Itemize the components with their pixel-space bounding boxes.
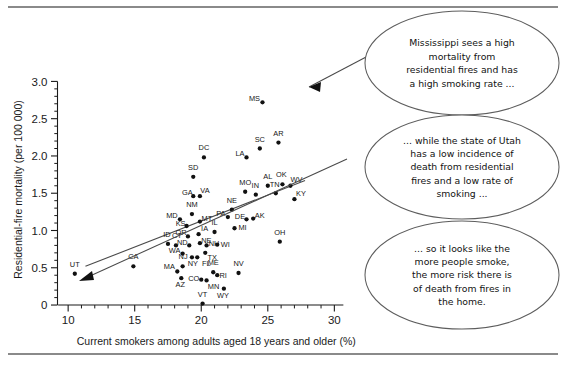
data-point	[254, 193, 258, 197]
callout-line: residential fires and has	[406, 64, 518, 75]
data-point-label: AK	[255, 211, 265, 220]
data-point-label: AR	[273, 129, 283, 138]
data-point	[202, 155, 206, 159]
data-point-label: NM	[186, 200, 198, 209]
data-point-label: SC	[255, 135, 266, 144]
data-point-label: NH	[209, 239, 220, 248]
leader-arrowhead-utah	[79, 271, 94, 281]
data-point-label: WA	[169, 246, 181, 255]
callout-conclusion: ... so it looks like themore people smok…	[365, 221, 559, 329]
data-point-label: AZ	[176, 280, 186, 289]
callout-line: Mississippi sees a high	[409, 37, 515, 48]
callout-line: the home.	[438, 296, 486, 307]
callout-line: more people smoke,	[415, 256, 510, 267]
data-point	[180, 264, 184, 268]
data-point	[73, 272, 77, 276]
data-point	[276, 140, 280, 144]
data-point	[258, 146, 262, 150]
x-tick-label: 15	[128, 314, 141, 326]
y-axis-tick-labels: 00.51.01.52.02.53.0	[32, 76, 48, 312]
data-point-label: MO	[239, 178, 251, 187]
y-tick-label: 3.0	[32, 76, 48, 88]
data-point	[190, 212, 194, 216]
data-point-label: KY	[296, 189, 306, 198]
callout-bubble	[365, 11, 559, 115]
data-point-label: TN	[270, 180, 280, 189]
data-point-label: ID	[163, 230, 170, 239]
y-tick-label: 0.5	[32, 262, 48, 274]
data-point	[196, 232, 200, 236]
data-point-label: KS	[176, 219, 186, 228]
data-point	[199, 278, 203, 282]
callout-line: of death from fires in	[413, 283, 511, 294]
figure-container: 00.51.01.52.02.53.0 1015202530 Residenti…	[0, 0, 566, 366]
data-point	[191, 175, 195, 179]
data-point-label: LA	[235, 149, 244, 158]
data-point-label: SD	[188, 163, 198, 172]
data-point-label: CO	[188, 274, 199, 283]
data-point-label: WY	[217, 291, 229, 300]
callout-utah: ... while the state of Utahhas a low inc…	[365, 115, 559, 219]
data-points-group	[73, 100, 297, 306]
data-point	[226, 215, 230, 219]
callout-line: ... while the state of Utah	[403, 135, 521, 146]
x-axis-title: Current smokers among adults aged 18 yea…	[77, 335, 356, 347]
data-point-label: NY	[188, 259, 198, 268]
scatter-plot: 00.51.01.52.02.53.0 1015202530 Residenti…	[0, 0, 566, 366]
y-tick-label: 0	[41, 299, 47, 311]
callout-line: fires and a low rate of	[411, 175, 513, 186]
data-point	[200, 301, 204, 305]
y-tick-label: 2.5	[32, 113, 48, 125]
data-point-label: OH	[274, 228, 285, 237]
data-point	[260, 100, 264, 104]
callout-line: ... so it looks like the	[414, 243, 510, 254]
data-point	[232, 226, 236, 230]
data-point-label: ME	[208, 258, 219, 267]
x-tick-label: 25	[261, 314, 274, 326]
callout-line: has a low incidence of	[410, 148, 514, 159]
data-point-label: MA	[164, 262, 175, 271]
callout-line: the more risk there is	[412, 269, 512, 280]
data-point	[175, 269, 179, 273]
data-point-label: MN	[208, 282, 220, 291]
data-point-label: IA	[201, 224, 208, 233]
callout-line: smoking ...	[436, 188, 487, 199]
leader-line-mississippi	[309, 56, 368, 87]
data-point-label: RI	[220, 271, 227, 280]
data-point-label: NV	[233, 259, 243, 268]
data-point	[243, 190, 247, 194]
data-point	[187, 243, 191, 247]
data-point-label: VT	[198, 290, 208, 299]
data-point-label: DC	[199, 143, 210, 152]
data-point	[278, 240, 282, 244]
y-tick-label: 1.5	[32, 187, 48, 199]
data-point-label: WI	[221, 240, 230, 249]
data-point-label: ND	[177, 238, 188, 247]
data-point	[236, 271, 240, 275]
data-point-label: MI	[238, 223, 246, 232]
data-point-label: VA	[200, 186, 209, 195]
data-point	[244, 155, 248, 159]
y-axis-title: Residential-fire mortality (per 100 000)	[12, 100, 24, 279]
y-axis-ticks	[51, 81, 58, 305]
x-axis-ticks	[68, 305, 334, 312]
x-tick-label: 10	[62, 314, 75, 326]
y-tick-label: 2.0	[32, 150, 48, 162]
y-tick-label: 1.0	[32, 225, 48, 237]
data-point-label: GA	[182, 188, 193, 197]
callout-line: mortality from	[429, 51, 496, 62]
data-point-label: IN	[252, 181, 259, 190]
callout-line: death from residential	[410, 161, 513, 172]
data-point-label: DE	[235, 212, 245, 221]
data-point-label: MS	[249, 94, 260, 103]
data-point	[280, 182, 284, 186]
data-point	[211, 270, 215, 274]
data-point-label: OK	[276, 170, 287, 179]
data-point	[212, 230, 216, 234]
x-tick-label: 30	[328, 314, 341, 326]
x-axis-tick-labels: 1015202530	[62, 314, 341, 326]
callouts-group: Mississippi sees a highmortality fromres…	[365, 11, 559, 329]
callout-mississippi: Mississippi sees a highmortality fromres…	[365, 11, 559, 115]
data-point-label: NE	[227, 196, 237, 205]
data-point	[131, 264, 135, 268]
